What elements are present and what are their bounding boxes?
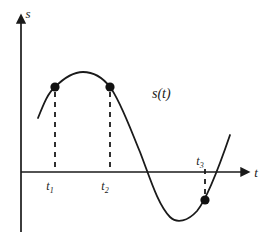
- tick-label-t1-sub: 1: [50, 186, 54, 195]
- function-graph-figure: s t s(t) t1 t2 t3: [0, 0, 276, 239]
- svg-text:t2: t2: [101, 179, 108, 195]
- svg-text:t3: t3: [196, 154, 203, 170]
- point-marker-t1: [50, 82, 59, 91]
- x-axis-label: t: [254, 165, 258, 180]
- curve-label: s(t): [152, 86, 171, 102]
- tick-label-t1: t1: [46, 179, 53, 195]
- graph-canvas: s t s(t) t1 t2 t3: [0, 0, 276, 239]
- tick-label-t3: t3: [196, 154, 203, 170]
- tick-label-t2: t2: [101, 179, 108, 195]
- point-marker-t2: [105, 82, 114, 91]
- tick-label-t2-sub: 2: [105, 186, 109, 195]
- point-marker-t3: [200, 195, 209, 204]
- svg-text:t1: t1: [46, 179, 53, 195]
- tick-label-t3-sub: 3: [199, 161, 204, 170]
- y-axis-label: s: [25, 6, 30, 21]
